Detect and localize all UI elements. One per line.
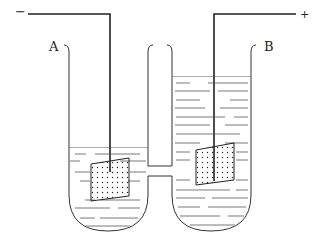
tube-b (167, 45, 256, 231)
electrolysis-diagram (0, 0, 315, 242)
anode-plate (196, 143, 234, 185)
connecting-tube (148, 166, 172, 176)
tube-a (64, 45, 153, 231)
cathode-plate (91, 158, 129, 201)
